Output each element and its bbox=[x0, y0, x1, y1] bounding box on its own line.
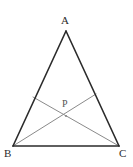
point-label-p: P bbox=[62, 99, 68, 109]
geometry-figure: A B C P bbox=[0, 0, 133, 167]
triangle-side-AC bbox=[66, 31, 119, 146]
triangle-outline-group bbox=[13, 31, 119, 146]
vertex-label-a: A bbox=[61, 15, 69, 26]
triangle-side-AB bbox=[13, 31, 66, 146]
intersection-point-P-marker bbox=[65, 115, 67, 117]
vertex-label-b: B bbox=[4, 148, 11, 159]
cevian-from-C-to-side-AB bbox=[33, 97, 119, 146]
vertex-label-c: C bbox=[119, 148, 126, 159]
